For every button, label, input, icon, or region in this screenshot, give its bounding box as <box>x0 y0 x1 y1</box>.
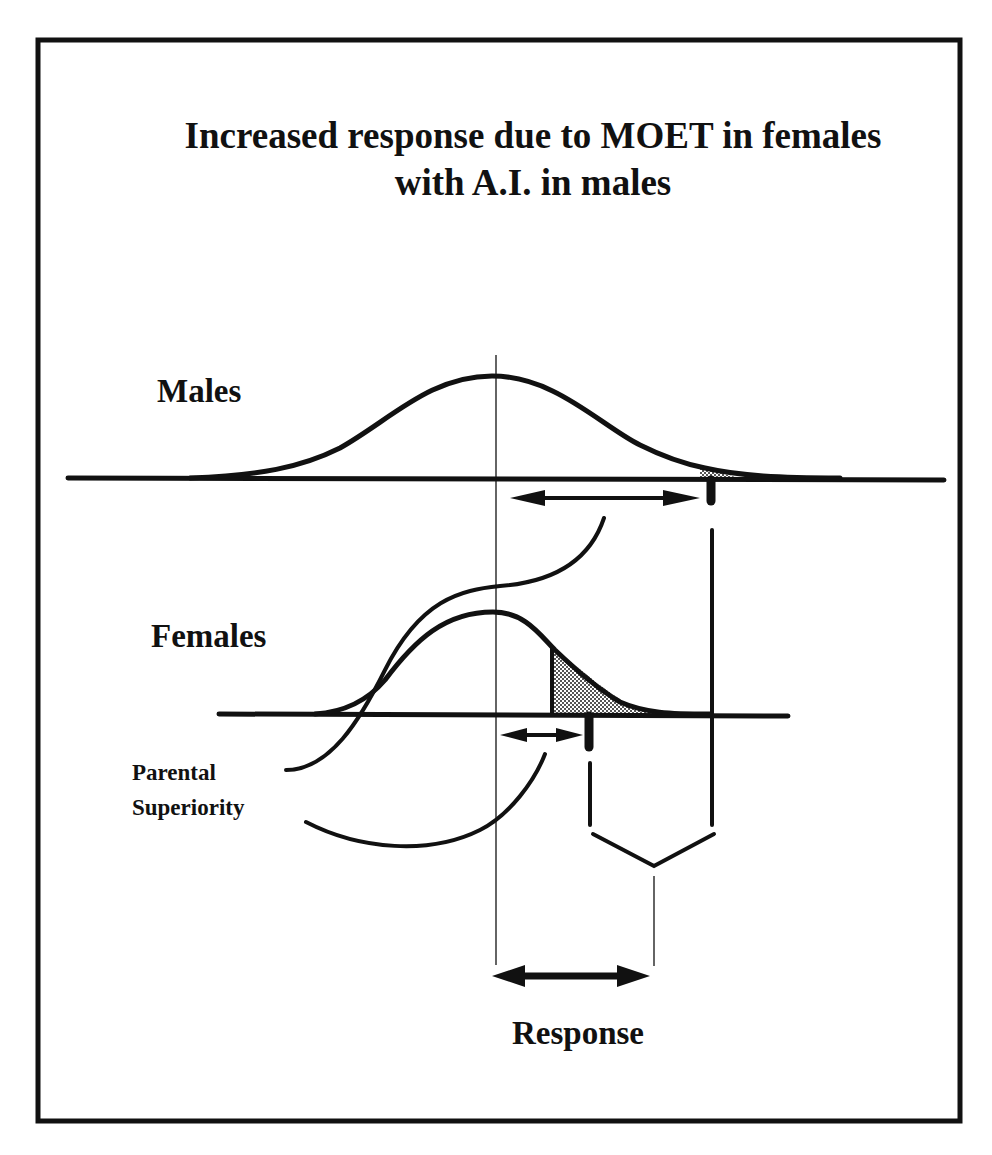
response-label: Response <box>512 1015 644 1051</box>
females-label: Females <box>151 618 267 654</box>
diagram-canvas: Increased response due to MOET in female… <box>0 0 992 1155</box>
title-line-2: with A.I. in males <box>395 162 672 203</box>
males-normal-curve <box>190 376 840 478</box>
males-selection-differential-arrow <box>510 490 700 506</box>
females-selection-differential-arrow <box>500 728 583 742</box>
title-line-1: Increased response due to MOET in female… <box>185 115 882 156</box>
females-normal-curve <box>315 612 710 714</box>
parental-superiority-label-line-2: Superiority <box>132 795 245 820</box>
females-selected-tail <box>552 647 660 714</box>
response-average-bracket <box>593 834 714 866</box>
response-arrow <box>492 965 650 987</box>
parental-superiority-brace-lower <box>306 754 545 846</box>
parental-superiority-label-line-1: Parental <box>132 760 216 785</box>
males-label: Males <box>157 373 241 409</box>
